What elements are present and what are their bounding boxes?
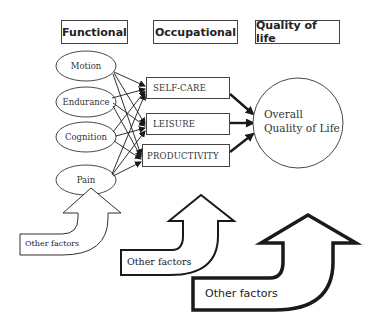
other-factors-label-medium: Other factors bbox=[127, 256, 191, 267]
header-occupational: Occupational bbox=[153, 20, 238, 44]
other-factors-label-thin: Other factors bbox=[25, 239, 79, 248]
node-pain-label: Pain bbox=[56, 176, 116, 185]
other-factors-label-thick: Other factors bbox=[205, 287, 278, 300]
node-leisure: LEISURE bbox=[146, 113, 230, 135]
qol-line-2: Quality of Life bbox=[264, 121, 340, 135]
occupational-to-qol-arrows bbox=[230, 94, 253, 152]
header-occupational-label: Occupational bbox=[155, 26, 236, 39]
diagram: Functional Occupational Quality of life … bbox=[0, 0, 377, 331]
node-cognition-label: Cognition bbox=[56, 133, 116, 142]
functional-ellipses bbox=[56, 51, 116, 195]
header-functional: Functional bbox=[61, 20, 128, 44]
functional-to-occupational-arrows bbox=[112, 72, 145, 176]
node-self-care: SELF-CARE bbox=[146, 77, 230, 99]
node-leisure-label: LEISURE bbox=[153, 119, 195, 129]
node-productivity: PRODUCTIVITY bbox=[142, 144, 230, 167]
node-self-care-label: SELF-CARE bbox=[153, 83, 206, 93]
header-functional-label: Functional bbox=[62, 26, 127, 39]
quality-of-life-label: Overall Quality of Life bbox=[264, 107, 340, 135]
header-quality-of-life: Quality of life bbox=[255, 20, 340, 44]
node-productivity-label: PRODUCTIVITY bbox=[147, 151, 219, 161]
qol-line-1: Overall bbox=[264, 107, 340, 121]
node-motion-label: Motion bbox=[56, 62, 116, 71]
node-endurance-label: Endurance bbox=[56, 98, 116, 107]
header-quality-of-life-label: Quality of life bbox=[256, 19, 339, 45]
